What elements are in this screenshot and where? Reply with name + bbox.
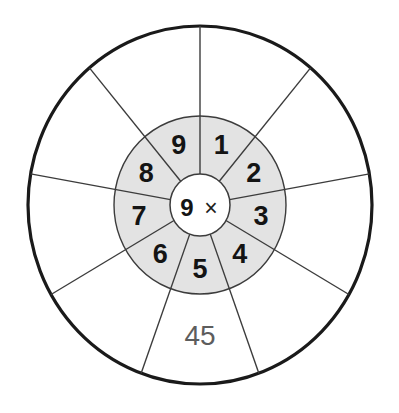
- inner-segment-digit-8: 8: [139, 158, 154, 188]
- inner-segment-digit-5: 5: [192, 254, 207, 284]
- multiplication-sign-icon: ×: [204, 195, 217, 221]
- outer-ring-labels: 45: [184, 320, 215, 351]
- inner-segment-digit-2: 2: [246, 158, 261, 188]
- inner-segment-digit-9: 9: [171, 130, 186, 160]
- inner-segment-digit-4: 4: [232, 239, 247, 269]
- inner-segment-digit-7: 7: [131, 201, 146, 231]
- inner-segment-digit-6: 6: [153, 239, 168, 269]
- center-hub-circle: [170, 174, 230, 236]
- multiplication-wheel-worksheet: 9 × 123456789 45: [0, 0, 399, 413]
- center-multiplier-label: 9: [180, 194, 193, 221]
- inner-segment-digit-3: 3: [254, 201, 269, 231]
- wheel-canvas: 9 × 123456789 45: [0, 0, 399, 413]
- outer-segment-answer-5[interactable]: 45: [184, 320, 215, 351]
- inner-segment-digit-1: 1: [214, 130, 229, 160]
